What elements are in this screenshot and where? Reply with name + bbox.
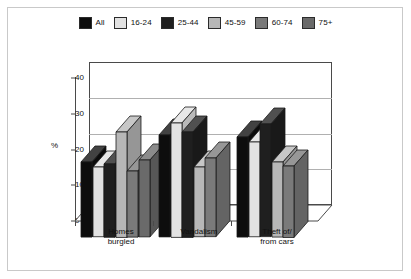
x-axis-label-1: Homes burgled bbox=[81, 227, 161, 247]
y-tick-label-40: 40 bbox=[75, 74, 80, 82]
chart-legend: All 16-24 25-44 45-59 60-74 75+ bbox=[0, 17, 411, 29]
bar-60-74-group-2 bbox=[205, 142, 230, 237]
legend-label-all: All bbox=[96, 18, 105, 28]
y-tick-label-10: 10 bbox=[75, 181, 80, 189]
y-tick-mark-30 bbox=[71, 113, 75, 114]
x-tick-mark-3 bbox=[231, 221, 232, 226]
y-tick-mark-20 bbox=[71, 149, 75, 150]
legend-swatch-16-24 bbox=[114, 17, 127, 29]
legend-swatch-45-59 bbox=[208, 17, 221, 29]
x-tick-mark-2 bbox=[153, 221, 154, 226]
y-axis-label: % bbox=[51, 142, 58, 150]
legend-swatch-all bbox=[79, 17, 92, 29]
gridline-30 bbox=[89, 98, 332, 99]
chart-figure: All 16-24 25-44 45-59 60-74 75+ 01020304… bbox=[0, 0, 411, 279]
y-tick-mark-40 bbox=[71, 78, 75, 79]
legend-label-25-44: 25-44 bbox=[178, 18, 199, 28]
plot-area: 010203040 % Homes burgledVandalismTheft … bbox=[75, 62, 345, 220]
x-axis-label-2: Vandalism bbox=[159, 227, 239, 237]
legend-swatch-75plus bbox=[302, 17, 315, 29]
x-tick-mark-1 bbox=[75, 221, 76, 226]
bar-60-74-group-3 bbox=[283, 150, 308, 238]
legend-label-60-74: 60-74 bbox=[272, 18, 293, 28]
legend-item-45-59: 45-59 bbox=[208, 17, 246, 29]
legend-label-45-59: 45-59 bbox=[225, 18, 246, 28]
x-axis-label-3: Theft of/ from cars bbox=[237, 227, 317, 247]
legend-swatch-25-44 bbox=[161, 17, 174, 29]
y-tick-label-30: 30 bbox=[75, 110, 80, 118]
legend-label-75plus: 75+ bbox=[319, 18, 333, 28]
legend-item-25-44: 25-44 bbox=[161, 17, 199, 29]
y-tick-mark-10 bbox=[71, 185, 75, 186]
legend-swatch-60-74 bbox=[255, 17, 268, 29]
legend-item-75plus: 75+ bbox=[302, 17, 333, 29]
legend-item-all: All bbox=[79, 17, 105, 29]
y-tick-label-20: 20 bbox=[75, 146, 80, 154]
legend-item-60-74: 60-74 bbox=[255, 17, 293, 29]
legend-item-16-24: 16-24 bbox=[114, 17, 152, 29]
legend-label-16-24: 16-24 bbox=[131, 18, 152, 28]
